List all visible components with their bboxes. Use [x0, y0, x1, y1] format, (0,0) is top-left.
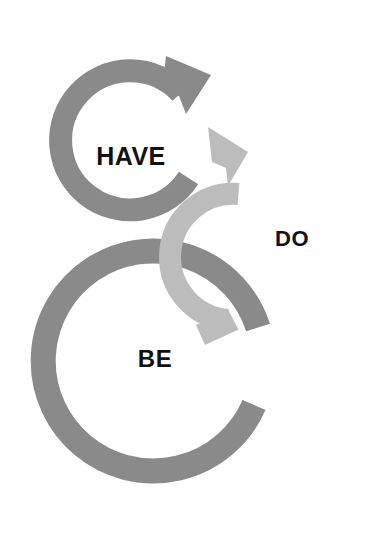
ring-label-be: BE [138, 345, 172, 373]
have-ring-shape [61, 56, 211, 210]
ring-label-have: HAVE [96, 142, 166, 171]
have-arrowhead [162, 56, 211, 114]
do-ring-shape [170, 127, 248, 345]
cycle-diagram-svg [0, 0, 375, 538]
cycle-diagram: HAVE DO BE [0, 0, 375, 538]
ring-label-do: DO [275, 226, 309, 252]
do-arrowhead [208, 127, 248, 186]
